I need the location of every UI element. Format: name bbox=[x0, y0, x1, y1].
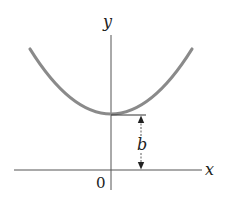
parabola-diagram: y x 0 b bbox=[0, 0, 225, 199]
y-axis-label: y bbox=[102, 12, 113, 31]
origin-label: 0 bbox=[96, 174, 106, 192]
x-axis-label: x bbox=[205, 160, 214, 179]
arrowhead-down-icon bbox=[138, 162, 144, 170]
arrowhead-up-icon bbox=[138, 116, 144, 124]
distance-b-label: b bbox=[137, 135, 147, 154]
